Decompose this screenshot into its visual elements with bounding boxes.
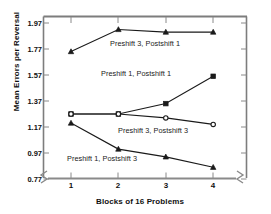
chart-plot-area <box>0 0 271 214</box>
series-0 <box>68 27 216 54</box>
series-1 <box>69 74 216 116</box>
series-2 <box>69 112 216 127</box>
chart-figure: Mean Errors per Reversal 1.97 1.77 1.57 … <box>0 0 271 214</box>
series-3 <box>68 120 216 169</box>
